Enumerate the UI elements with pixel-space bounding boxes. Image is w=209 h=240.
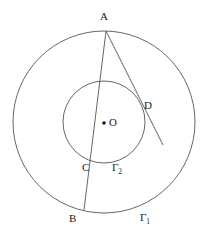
- center-label-o: O: [109, 117, 117, 128]
- gamma1-subscript: 1: [146, 217, 150, 226]
- point-label-d: D: [144, 100, 152, 111]
- gamma2-subscript: 2: [118, 167, 122, 176]
- outer-circle-label-gamma1: Γ1: [140, 212, 150, 226]
- point-label-a: A: [100, 11, 108, 22]
- point-label-c: C: [82, 162, 89, 173]
- center-point-dot: [102, 121, 106, 125]
- segment-a-to-b: [84, 31, 106, 210]
- geometry-figure: A B C D O Γ1 Γ2: [0, 0, 209, 240]
- inner-circle-label-gamma2: Γ2: [112, 162, 122, 176]
- point-label-b: B: [69, 213, 76, 224]
- geometry-canvas: [0, 0, 209, 240]
